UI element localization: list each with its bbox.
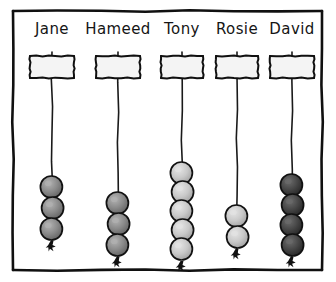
hanger-fill-jane — [30, 56, 74, 78]
bead — [227, 226, 249, 248]
bead-highlight — [45, 181, 52, 186]
bead-highlight — [111, 197, 118, 202]
frame-edge-1 — [321, 11, 322, 270]
hanger-edge-rosie-3 — [216, 56, 217, 78]
hanger-edge-david-1 — [313, 56, 314, 78]
bead-highlight — [286, 239, 293, 244]
hanger-edge-tony-0 — [161, 56, 203, 57]
hanger-edge-tony-1 — [202, 56, 203, 78]
bead — [282, 194, 304, 216]
bead-highlight — [45, 223, 52, 228]
figure-canvas: JaneHameedTonyRosieDavid — [0, 0, 336, 282]
bead-circle-rosie-2 — [227, 226, 249, 248]
bead — [280, 174, 302, 196]
bead-highlight — [286, 199, 293, 204]
bead — [225, 205, 247, 227]
hanger-fill-rosie — [216, 56, 258, 78]
bead — [40, 176, 62, 198]
hanger-edge-hameed-1 — [139, 56, 140, 78]
bead-strings-figure: JaneHameedTonyRosieDavid — [0, 0, 336, 282]
bead-highlight — [111, 239, 118, 244]
bead-circle-jane-3 — [40, 218, 62, 240]
bead — [280, 214, 302, 236]
bead-circle-david-4 — [282, 234, 304, 256]
frame-edge-2 — [13, 269, 322, 270]
bead-highlight — [112, 218, 119, 223]
name-label-jane: Jane — [34, 20, 69, 38]
hanger-fill-hameed — [96, 56, 140, 78]
bead-highlight — [231, 231, 238, 236]
bead-circle-hameed-1 — [106, 192, 128, 214]
bead-highlight — [175, 243, 182, 248]
hanger-edge-hameed-3 — [95, 56, 96, 78]
bead-highlight — [230, 210, 237, 215]
hanger-edge-tony-3 — [161, 56, 162, 78]
hanger-edge-david-3 — [269, 56, 270, 78]
hanger-edge-hameed-0 — [96, 55, 140, 56]
hanger-edge-tony-2 — [161, 77, 203, 78]
bead — [170, 238, 192, 260]
hanger-fill-tony — [161, 56, 203, 78]
bead-highlight — [176, 224, 183, 229]
bead-highlight — [285, 179, 292, 184]
bead — [282, 234, 304, 256]
bead-highlight — [46, 202, 53, 207]
bead-highlight — [175, 167, 182, 172]
name-label-david: David — [269, 20, 314, 38]
bead — [106, 192, 128, 214]
hanger-edge-rosie-0 — [216, 56, 258, 57]
frame-edge-3 — [12, 11, 13, 270]
hanger-edge-david-0 — [270, 55, 314, 56]
hanger-edge-jane-1 — [74, 56, 75, 78]
frame-edge-0 — [13, 10, 322, 11]
bead-highlight — [176, 186, 183, 191]
hanger-edge-jane-2 — [30, 78, 74, 79]
hanger-edge-rosie-2 — [216, 77, 258, 78]
bead-circle-hameed-3 — [106, 234, 128, 256]
bead — [108, 213, 130, 235]
bead-circle-jane-2 — [42, 197, 64, 219]
bead-circle-david-2 — [282, 194, 304, 216]
name-label-tony: Tony — [163, 20, 200, 38]
bead-circle-jane-1 — [40, 176, 62, 198]
name-label-rosie: Rosie — [216, 20, 258, 38]
bead-circle-david-3 — [280, 214, 302, 236]
bead — [106, 234, 128, 256]
bead-circle-hameed-2 — [108, 213, 130, 235]
bead — [42, 197, 64, 219]
bead-circle-david-1 — [280, 174, 302, 196]
hanger-edge-david-2 — [270, 77, 314, 78]
bead-circle-rosie-1 — [225, 205, 247, 227]
bead-circle-tony-5 — [170, 238, 192, 260]
bead-highlight — [175, 205, 182, 210]
bead — [40, 218, 62, 240]
hanger-edge-rosie-1 — [257, 56, 258, 78]
name-label-hameed: Hameed — [85, 20, 150, 38]
hanger-edge-jane-0 — [30, 55, 74, 56]
hanger-edge-hameed-2 — [96, 77, 140, 78]
bead-highlight — [285, 219, 292, 224]
hanger-fill-david — [270, 56, 314, 78]
hanger-edge-jane-3 — [29, 56, 30, 78]
